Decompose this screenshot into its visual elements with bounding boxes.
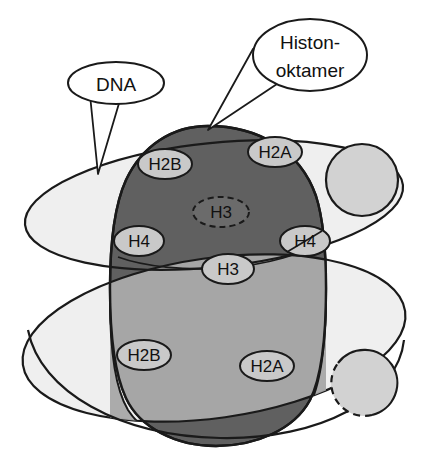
globule-lower-right: [331, 350, 397, 416]
histone-label-h4-left: H4: [114, 226, 164, 256]
histone-label-h2b-top: H2B: [138, 149, 192, 179]
dna-callout-label: DNA: [96, 74, 136, 95]
histone-oktamer-callout-label-line2: oktamer: [276, 60, 345, 81]
histone-label-h2a-bottom-text: H2A: [250, 357, 284, 376]
histone-label-h2b-bottom-text: H2B: [127, 346, 160, 365]
histone-label-h2a-top: H2A: [248, 137, 302, 167]
histone-oktamer-callout: Histon- oktamer: [208, 19, 367, 130]
histone-label-h4-right-text: H4: [294, 232, 316, 251]
histone-label-h4-right: H4: [280, 226, 330, 256]
globule-upper-right: [326, 144, 398, 216]
histone-label-h4-left-text: H4: [128, 232, 150, 251]
histone-label-h3-lower: H3: [202, 254, 254, 284]
nucleosome-figure: H2B H2A H3 H4 H4 H3: [0, 0, 426, 458]
histone-label-h2a-top-text: H2A: [258, 143, 292, 162]
histone-label-h3-upper: H3: [193, 197, 249, 227]
histone-label-h3-lower-text: H3: [217, 260, 239, 279]
histone-label-h2a-bottom: H2A: [240, 351, 294, 381]
histone-label-h2b-bottom: H2B: [117, 340, 171, 370]
histone-label-h3-upper-text: H3: [210, 203, 232, 222]
nucleosome-diagram-canvas: H2B H2A H3 H4 H4 H3: [0, 0, 426, 458]
histone-oktamer-callout-label-line1: Histon-: [280, 32, 340, 53]
histone-label-h2b-top-text: H2B: [148, 155, 181, 174]
